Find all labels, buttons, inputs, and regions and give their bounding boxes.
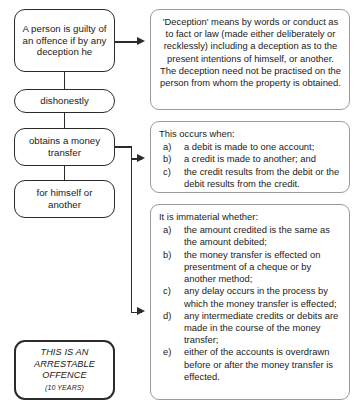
arrestable-years: (10 YEARS): [45, 384, 84, 393]
arrestable-line-1: THIS IS AN: [40, 347, 88, 358]
list-marker: d): [163, 310, 171, 322]
arrestable-line-2: ARRESTABLE: [34, 359, 95, 370]
list-item: c) any delay occurs in the process by wh…: [159, 285, 342, 309]
list-marker: c): [163, 285, 171, 297]
list-text: any delay occurs in the process by which…: [184, 285, 337, 308]
flow-node-for-himself-or-another: for himself or another: [14, 180, 115, 218]
panel-immaterial-heading: It is immaterial whether:: [159, 211, 342, 223]
list-marker: c): [163, 166, 171, 178]
connector-obtains-to-himself: [64, 166, 66, 180]
flowchart-canvas: A person is guilty of an offence if by a…: [0, 0, 361, 415]
list-item: a) a debit is made to one account;: [159, 141, 342, 153]
list-text: the amount credited is the same as the a…: [184, 224, 330, 247]
panel-it-is-immaterial-whether: It is immaterial whether: a) the amount …: [150, 204, 350, 400]
list-text: a debit is made to one account;: [184, 141, 314, 152]
arrowhead-to-immaterial-panel: [137, 307, 145, 315]
flow-node-offence-label: A person is guilty of an offence if by a…: [19, 23, 110, 58]
list-text: a credit is made to another; and: [184, 153, 316, 164]
panel-deception-definition: 'Deception' means by words or conduct as…: [150, 9, 350, 110]
list-item: b) the money transfer is effected on pre…: [159, 249, 342, 286]
list-item: e) either of the accounts is overdrawn b…: [159, 346, 342, 383]
list-text: any intermediate credits or debits are m…: [184, 310, 338, 345]
list-item: d) any intermediate credits or debits ar…: [159, 310, 342, 347]
flow-node-for-himself-or-another-label: for himself or another: [19, 187, 110, 211]
flow-node-dishonestly-label: dishonestly: [40, 95, 88, 107]
list-marker: b): [163, 153, 171, 165]
panel-occurs-heading: This occurs when:: [159, 128, 342, 140]
flow-node-offence: A person is guilty of an offence if by a…: [14, 9, 115, 72]
panel-immaterial-list: a) the amount credited is the same as th…: [159, 224, 342, 383]
panel-deception-text: 'Deception' means by words or conduct as…: [159, 16, 342, 89]
flow-node-dishonestly: dishonestly: [14, 89, 115, 113]
arrowhead-to-deception-panel: [137, 37, 145, 45]
panel-this-occurs-when: This occurs when: a) a debit is made to …: [150, 121, 350, 193]
list-text: the money transfer is effected on presen…: [184, 249, 320, 284]
list-marker: a): [163, 141, 171, 153]
list-item: b) a credit is made to another; and: [159, 153, 342, 165]
panel-occurs-list: a) a debit is made to one account; b) a …: [159, 141, 342, 190]
list-marker: e): [163, 346, 171, 358]
list-text: the credit results from the debit or the…: [184, 166, 339, 189]
connector-dishonestly-to-obtains: [64, 113, 66, 128]
connector-obtains-branch-trunk: [131, 146, 133, 313]
list-text: either of the accounts is overdrawn befo…: [184, 346, 333, 381]
connector-offence-to-dishonestly: [64, 72, 66, 89]
flow-node-obtains-money-transfer-label: obtains a money transfer: [19, 135, 110, 159]
arrowhead-to-occurs-panel: [137, 154, 145, 162]
flow-node-arrestable-offence: THIS IS AN ARRESTABLE OFFENCE (10 YEARS): [14, 340, 115, 400]
list-item: c) the credit results from the debit or …: [159, 166, 342, 190]
list-marker: a): [163, 224, 171, 236]
list-marker: b): [163, 249, 171, 261]
connector-obtains-branch-stem: [115, 146, 132, 148]
arrestable-line-3: OFFENCE: [42, 370, 87, 381]
list-item: a) the amount credited is the same as th…: [159, 224, 342, 248]
flow-node-obtains-money-transfer: obtains a money transfer: [14, 128, 115, 166]
